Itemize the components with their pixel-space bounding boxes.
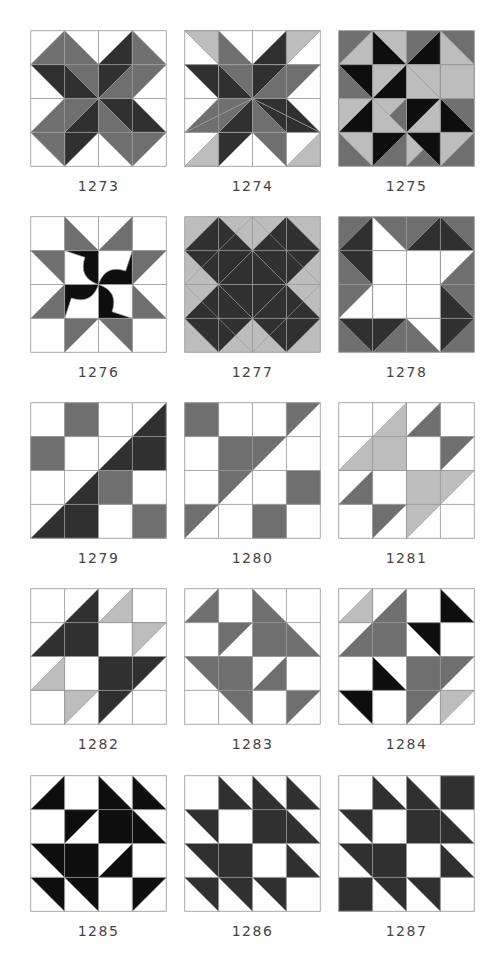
block-number-label: 1277 [184,364,321,380]
quilt-block-graphic [30,30,167,167]
block-number-label: 1274 [184,178,321,194]
quilt-block-graphic [338,588,475,725]
quilt-block-graphic [338,216,475,353]
quilt-patch [440,65,474,99]
quilt-block-graphic [184,216,321,353]
quilt-block-1287 [338,775,475,912]
quilt-block-1277 [184,216,321,353]
block-number-label: 1285 [30,923,167,939]
quilt-block-1285 [30,775,167,912]
quilt-block-graphic [184,588,321,725]
block-number-label: 1273 [30,178,167,194]
block-number-label: 1287 [338,923,475,939]
block-number-label: 1280 [184,550,321,566]
quilt-block-1278 [338,216,475,353]
quilt-block-graphic [30,402,167,539]
block-number-label: 1276 [30,364,167,380]
quilt-block-1280 [184,402,321,539]
quilt-block-graphic [30,588,167,725]
quilt-block-1283 [184,588,321,725]
quilt-block-1281 [338,402,475,539]
block-number-label: 1281 [338,550,475,566]
quilt-block-graphic [184,402,321,539]
quilt-patch [65,403,99,437]
quilt-block-1273 [30,30,167,167]
quilt-patch [339,877,373,911]
quilt-block-1284 [338,588,475,725]
block-number-label: 1284 [338,736,475,752]
quilt-patch [132,504,166,538]
block-number-label: 1283 [184,736,321,752]
block-number-label: 1279 [30,550,167,566]
quilt-block-1279 [30,402,167,539]
quilt-block-1275 [338,30,475,167]
quilt-patch [99,471,133,505]
quilt-patch [253,504,287,538]
quilt-patch [286,471,320,505]
quilt-block-graphic [30,775,167,912]
quilt-block-graphic [338,402,475,539]
quilt-block-graphic [184,30,321,167]
block-number-label: 1286 [184,923,321,939]
quilt-block-1274 [184,30,321,167]
block-number-label: 1282 [30,736,167,752]
quilt-block-1286 [184,775,321,912]
quilt-block-graphic [184,775,321,912]
quilt-block-graphic [338,30,475,167]
quilt-patch [185,403,219,437]
quilt-patch [31,437,65,471]
quilt-patch [440,776,474,810]
block-number-label: 1278 [338,364,475,380]
quilt-block-graphic [30,216,167,353]
block-number-label: 1275 [338,178,475,194]
quilt-block-1282 [30,588,167,725]
quilt-block-1276 [30,216,167,353]
quilt-block-graphic [338,775,475,912]
